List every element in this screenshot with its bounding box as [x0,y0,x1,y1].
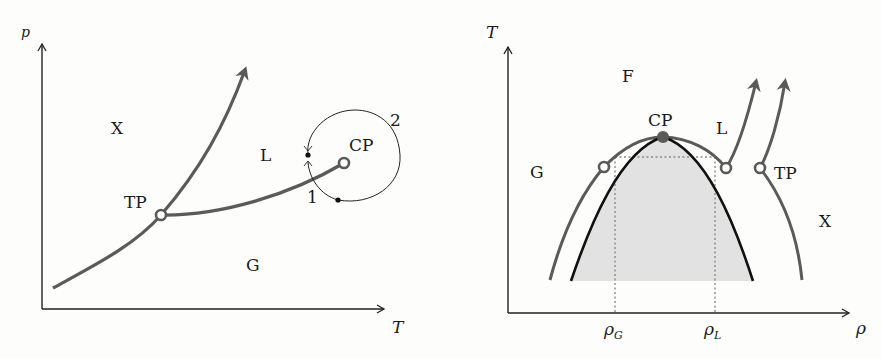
t-axis-label: T [486,22,499,42]
critical-point-marker [339,158,349,168]
critical-point-label: CP [349,135,373,155]
region-liquid-label: L [260,145,271,165]
rho-axis-label: ρ [855,318,866,338]
rho-l-tick-label: ρL [703,319,721,342]
right-trho-diagram: T ρ F CP L G TP X ρG ρL [486,22,866,342]
region-liquid-label: L [716,118,727,138]
gas-triple-marker [599,162,609,172]
path-start-dot [335,197,340,202]
sublimation-curve [53,215,161,288]
phase-diagrams: p T X L G TP CP 1 2 T ρ [0,0,881,359]
triple-point-marker [156,210,166,220]
triple-point-label: TP [774,163,797,183]
liquid-triple-marker [721,163,731,173]
rho-g-tick-label: ρG [603,319,623,342]
region-solid-label: X [111,118,124,138]
t-axis-label: T [392,317,405,337]
region-fluid-label: F [622,66,634,86]
p-axis-label: p [21,24,30,40]
path-label-1: 1 [307,187,318,207]
liquid-solid-boundary-arrow [726,82,756,168]
solid-right-boundary [760,168,802,280]
solid-boundary-arrow [760,82,785,168]
critical-point-label: CP [648,110,672,130]
critical-point-marker [657,131,669,143]
left-pt-diagram: p T X L G TP CP 1 2 [21,24,405,337]
region-gas-label: G [530,162,544,182]
path-end-dot [305,152,310,157]
melting-curve [161,70,245,215]
path-label-2: 2 [390,110,401,130]
region-solid-label: X [819,211,832,231]
region-gas-label: G [246,255,260,275]
triple-point-label: TP [124,192,147,212]
path-around-critical-point [308,110,400,201]
solid-triple-marker [755,163,765,173]
